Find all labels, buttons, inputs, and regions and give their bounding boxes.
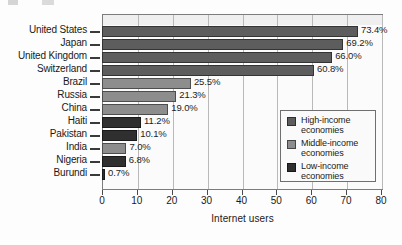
y-axis-label: Switzerland bbox=[37, 63, 87, 74]
x-axis-tick-label: 60 bbox=[306, 195, 317, 206]
y-axis-tick bbox=[90, 44, 100, 46]
y-axis-tick bbox=[90, 31, 100, 33]
bar-value-label: 69.2% bbox=[346, 37, 372, 48]
bar-value-label: 0.7% bbox=[108, 167, 129, 178]
y-axis-label: India bbox=[66, 141, 87, 152]
bar bbox=[102, 156, 126, 167]
bar-value-label: 66.0% bbox=[335, 50, 361, 61]
x-axis-tick-label: 40 bbox=[236, 195, 247, 206]
bar bbox=[102, 130, 137, 141]
bar-value-label: 19.0% bbox=[171, 102, 197, 113]
x-axis-title: Internet users bbox=[102, 213, 383, 224]
legend-swatch-high-income bbox=[287, 117, 296, 126]
x-axis-tick-label: 50 bbox=[271, 195, 282, 206]
bar-row: 69.2% bbox=[102, 39, 383, 50]
y-axis-tick bbox=[90, 109, 100, 111]
y-axis-tick bbox=[90, 174, 100, 176]
bar bbox=[102, 52, 332, 63]
bar-value-label: 60.8% bbox=[317, 63, 343, 74]
x-axis-tick-label: 10 bbox=[131, 195, 142, 206]
y-axis-label: Burundi bbox=[54, 167, 87, 178]
legend-label-middle-income: Middle-incomeeconomies bbox=[301, 139, 358, 158]
bar-row: 73.4% bbox=[102, 26, 383, 37]
y-axis-label: Pakistan bbox=[50, 128, 87, 139]
y-axis-label: United Kingdom bbox=[18, 50, 87, 61]
legend-swatch-low-income bbox=[287, 163, 296, 172]
legend-label-high-income: High-incomeeconomies bbox=[301, 116, 350, 135]
y-axis-tick bbox=[90, 122, 100, 124]
bar-row: 66.0% bbox=[102, 52, 383, 63]
y-axis-label: Russia bbox=[57, 89, 87, 100]
bar-row: 60.8% bbox=[102, 65, 383, 76]
bar-row: 21.3% bbox=[102, 91, 383, 102]
bar bbox=[102, 65, 314, 76]
y-axis-label: China bbox=[62, 102, 87, 113]
bar-value-label: 7.0% bbox=[129, 141, 150, 152]
y-axis-tick bbox=[90, 57, 100, 59]
legend-item-low-income: Low-incomeeconomies bbox=[287, 162, 375, 181]
legend-label-low-income: Low-incomeeconomies bbox=[301, 162, 349, 181]
x-axis-tick-label: 80 bbox=[375, 195, 386, 206]
y-axis-tick bbox=[90, 96, 100, 98]
bar bbox=[102, 91, 176, 102]
y-axis-label: United States bbox=[29, 24, 87, 35]
y-axis-tick bbox=[90, 83, 100, 85]
legend-swatch-middle-income bbox=[287, 140, 296, 149]
bar bbox=[102, 78, 191, 89]
bar bbox=[102, 104, 168, 115]
bar-value-label: 21.3% bbox=[179, 89, 205, 100]
x-axis-tick-label: 0 bbox=[99, 195, 105, 206]
chart-legend: High-incomeeconomies Middle-incomeeconom… bbox=[280, 110, 376, 182]
bar-chart: United StatesJapanUnited KingdomSwitzerl… bbox=[0, 0, 402, 245]
y-axis-tick bbox=[90, 70, 100, 72]
y-axis-label: Japan bbox=[61, 37, 88, 48]
bar-value-label: 73.4% bbox=[361, 24, 387, 35]
y-axis-tick bbox=[90, 148, 100, 150]
bar-value-label: 10.1% bbox=[140, 128, 166, 139]
bar-value-label: 6.8% bbox=[129, 154, 150, 165]
y-axis-tick bbox=[90, 135, 100, 137]
y-axis-labels: United StatesJapanUnited KingdomSwitzerl… bbox=[0, 14, 102, 190]
bar-value-label: 11.2% bbox=[144, 115, 170, 126]
bar bbox=[102, 169, 105, 180]
legend-item-middle-income: Middle-incomeeconomies bbox=[287, 139, 375, 158]
bar-row: 25.5% bbox=[102, 78, 383, 89]
bar bbox=[102, 143, 126, 154]
y-axis-label: Haiti bbox=[68, 115, 87, 126]
y-axis-label: Nigeria bbox=[56, 154, 87, 165]
legend-item-high-income: High-incomeeconomies bbox=[287, 116, 375, 135]
y-axis-tick bbox=[90, 161, 100, 163]
bar bbox=[102, 26, 358, 37]
y-axis-label: Brazil bbox=[63, 76, 87, 87]
cropped-title-sliver bbox=[8, 0, 208, 5]
x-axis-tick-label: 30 bbox=[201, 195, 212, 206]
bar bbox=[102, 39, 343, 50]
x-axis-tick-label: 20 bbox=[166, 195, 177, 206]
x-axis-tick-label: 70 bbox=[341, 195, 352, 206]
bar bbox=[102, 117, 141, 128]
x-axis-tick-labels: 01020304050607080 bbox=[102, 195, 383, 209]
bar-value-label: 25.5% bbox=[194, 76, 220, 87]
